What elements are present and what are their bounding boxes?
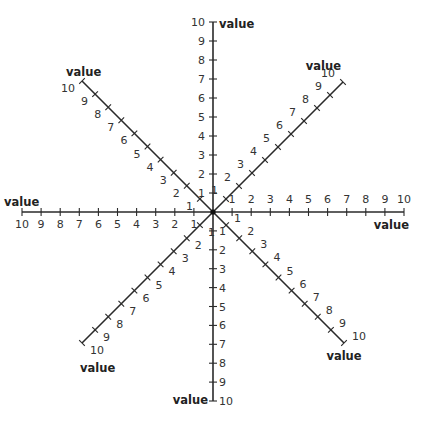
- tick-label: 4: [273, 251, 280, 264]
- tick-label: 2: [195, 239, 202, 252]
- tick-label: 8: [219, 357, 226, 370]
- axis-title-south-east: value: [326, 349, 361, 363]
- tick-label: 8: [57, 218, 64, 231]
- tick-label: 6: [276, 119, 283, 132]
- origin-point: [210, 209, 215, 214]
- tick-label: 8: [302, 93, 309, 106]
- tick-label: 9: [38, 218, 45, 231]
- tick-label: 4: [219, 282, 226, 295]
- tick-label: 5: [198, 111, 205, 124]
- tick-label: 8: [326, 304, 333, 317]
- tick-label: 3: [260, 238, 267, 251]
- tick-label: 5: [287, 265, 294, 278]
- tick-label: 8: [362, 193, 369, 206]
- tick-label: 8: [94, 108, 101, 121]
- tick-label: 10: [15, 218, 29, 231]
- tick-label: 4: [250, 145, 257, 158]
- tick-label: 5: [134, 148, 141, 161]
- tick-label: 9: [339, 317, 346, 330]
- tick-label: 3: [198, 149, 205, 162]
- tick-label: 6: [300, 278, 307, 291]
- tick-label: 9: [315, 80, 322, 93]
- tick-label: 10: [219, 395, 233, 408]
- tick-label: 7: [129, 305, 136, 318]
- tick-label: 3: [237, 158, 244, 171]
- tick-label: 4: [133, 218, 140, 231]
- tick-label: 7: [219, 338, 226, 351]
- tick-label: 3: [182, 252, 189, 265]
- axis-title-north-west: value: [66, 65, 101, 79]
- tick-label: 3: [267, 193, 274, 206]
- tick-label: 10: [90, 344, 104, 357]
- tick-label: 9: [103, 331, 110, 344]
- tick-label: 6: [198, 92, 205, 105]
- tick-label: 7: [343, 193, 350, 206]
- tick-label: 1: [234, 212, 241, 225]
- radial-axis-diagram: 12345678910value12345678910value12345678…: [0, 0, 432, 429]
- tick-label: 8: [198, 54, 205, 67]
- tick-label: 7: [107, 121, 114, 134]
- tick-label: 6: [219, 319, 226, 332]
- tick-label: 5: [305, 193, 312, 206]
- tick-label: 2: [247, 225, 254, 238]
- tick-label: 2: [248, 193, 255, 206]
- tick-label: 4: [198, 130, 205, 143]
- tick-label: 6: [324, 193, 331, 206]
- tick-label: 6: [95, 218, 102, 231]
- tick-label: 7: [289, 106, 296, 119]
- tick-label: 10: [61, 82, 75, 95]
- tick-label: 2: [171, 218, 178, 231]
- tick-label: 7: [198, 73, 205, 86]
- tick-label: 7: [313, 291, 320, 304]
- tick-label: 5: [156, 279, 163, 292]
- axis-title-south: value: [173, 393, 208, 407]
- axis-title-north-east: value: [306, 59, 341, 73]
- tick-label: 6: [120, 134, 127, 147]
- tick-label: 2: [219, 244, 226, 257]
- tick-label: 4: [286, 193, 293, 206]
- tick-label: 2: [173, 187, 180, 200]
- tick-label: 3: [152, 218, 159, 231]
- tick-label: 1: [208, 226, 215, 239]
- tick-label: 7: [76, 218, 83, 231]
- tick-label: 2: [224, 171, 231, 184]
- tick-label: 6: [142, 292, 149, 305]
- tick-label: 8: [116, 318, 123, 331]
- axis-title-north: value: [219, 17, 254, 31]
- tick-label: 4: [147, 161, 154, 174]
- axis-title-south-west: value: [80, 361, 115, 375]
- tick-label: 10: [397, 193, 411, 206]
- axis-title-west: value: [4, 195, 39, 209]
- tick-label: 9: [381, 193, 388, 206]
- tick-label: 4: [169, 265, 176, 278]
- tick-label: 2: [198, 168, 205, 181]
- tick-label: 10: [191, 16, 205, 29]
- tick-label: 10: [352, 330, 366, 343]
- diagram-canvas: 12345678910value12345678910value12345678…: [0, 0, 432, 429]
- tick-label: 9: [81, 95, 88, 108]
- tick-label: 5: [263, 132, 270, 145]
- tick-label: 3: [219, 263, 226, 276]
- tick-label: 1: [211, 184, 218, 197]
- tick-label: 9: [198, 35, 205, 48]
- tick-label: 1: [186, 200, 193, 213]
- tick-label: 9: [219, 376, 226, 389]
- tick-label: 5: [114, 218, 121, 231]
- axis-title-east: value: [374, 218, 409, 232]
- tick-label: 5: [219, 301, 226, 314]
- tick-label: 3: [160, 174, 167, 187]
